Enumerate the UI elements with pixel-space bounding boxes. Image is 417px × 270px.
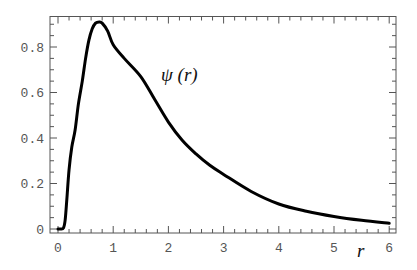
y-axis-tick-labels: 00.20.40.60.8	[21, 41, 45, 238]
x-tick-label: 0	[54, 241, 62, 256]
y-tick-label: 0.8	[21, 41, 44, 56]
x-tick-label: 2	[164, 241, 172, 256]
x-tick-label: 5	[330, 241, 338, 256]
curve-label: ψ (r)	[161, 64, 198, 86]
y-axis-ticks	[50, 24, 396, 229]
x-axis-tick-labels: 0123456	[54, 241, 393, 256]
y-tick-label: 0	[36, 223, 44, 238]
x-tick-label: 6	[385, 241, 393, 256]
y-tick-label: 0.4	[21, 132, 45, 147]
x-tick-label: 1	[109, 241, 117, 256]
x-tick-label: 3	[220, 241, 228, 256]
chart-plot: 0123456 00.20.40.60.8 ψ (r) r	[0, 0, 417, 270]
x-axis-ticks	[58, 17, 389, 234]
plot-frame	[50, 17, 396, 234]
y-tick-label: 0.2	[21, 177, 44, 192]
psi-curve	[58, 22, 389, 229]
x-axis-label: r	[357, 240, 365, 261]
y-tick-label: 0.6	[21, 86, 44, 101]
x-tick-label: 4	[275, 241, 283, 256]
